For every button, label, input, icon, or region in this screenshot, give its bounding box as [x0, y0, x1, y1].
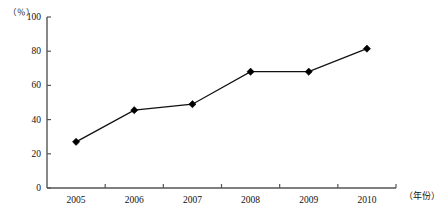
data-point-marker: [131, 107, 138, 114]
x-axis-tick-label: 2007: [169, 195, 215, 205]
x-axis-tick-label: 2006: [111, 195, 157, 205]
y-axis-tick-label: 40: [15, 115, 41, 125]
x-axis-tick-label: 2008: [228, 195, 274, 205]
x-axis-tick-label: 2009: [286, 195, 332, 205]
data-point-marker: [363, 45, 370, 52]
data-point-marker: [189, 101, 196, 108]
y-axis-tick-label: 0: [15, 183, 41, 193]
data-series-line: [76, 49, 367, 142]
y-axis-tick-label: 20: [15, 149, 41, 159]
y-axis-tick-label: 60: [15, 80, 41, 90]
y-axis-tick-label: 100: [15, 12, 41, 22]
chart-plot-area: [0, 0, 440, 219]
y-axis-tick-label: 80: [15, 46, 41, 56]
data-point-marker: [305, 68, 312, 75]
data-point-marker: [247, 68, 254, 75]
x-axis-tick-label: 2005: [53, 195, 99, 205]
x-axis-tick-label: 2010: [344, 195, 390, 205]
x-axis-unit-label: （年份）: [404, 191, 440, 201]
data-point-marker: [72, 138, 79, 145]
line-chart: （％） 100806040200 20052006200720082009201…: [0, 0, 440, 219]
